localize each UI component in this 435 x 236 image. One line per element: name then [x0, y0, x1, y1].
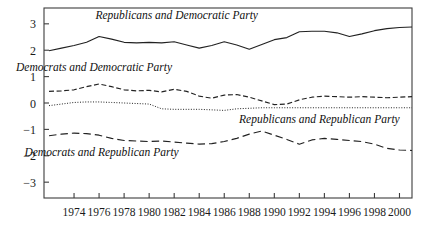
y-tick-label: −3: [23, 176, 36, 190]
x-tick-label: 2000: [388, 206, 411, 218]
y-tick-label: −1: [23, 123, 36, 137]
series-label-democrats-and-democratic-party: Democrats and Democratic Party: [15, 61, 173, 74]
x-tick-label: 1998: [363, 206, 386, 218]
y-tick-label: 3: [30, 17, 36, 31]
series-label-republicans-and-democratic-party: Republicans and Democratic Party: [94, 9, 258, 22]
y-tick-label: 0: [30, 97, 36, 111]
x-tick-label: 1990: [263, 206, 286, 218]
x-tick-label: 1988: [238, 206, 261, 218]
x-tick-label: 1974: [63, 206, 86, 218]
x-tick-label: 1992: [288, 206, 311, 218]
x-tick-label: 1976: [88, 206, 111, 218]
series-label-democrats-and-republican-party: Democrats and Republican Party: [23, 146, 179, 159]
x-tick-label: 1986: [213, 206, 236, 218]
x-tick-label: 1980: [138, 206, 161, 218]
y-tick-label: 2: [30, 44, 36, 58]
x-tick-label: 1982: [163, 206, 186, 218]
x-tick-label: 1984: [188, 206, 211, 218]
x-tick-label: 1994: [313, 206, 336, 218]
x-tick-label: 1978: [113, 206, 136, 218]
series-label-republicans-and-republican-party: Republicans and Republican Party: [238, 113, 401, 126]
chart-container: 3210−1−2−3 19741976197819801982198419861…: [0, 0, 435, 236]
line-chart: 3210−1−2−3 19741976197819801982198419861…: [0, 0, 435, 236]
x-tick-label: 1996: [338, 206, 361, 218]
